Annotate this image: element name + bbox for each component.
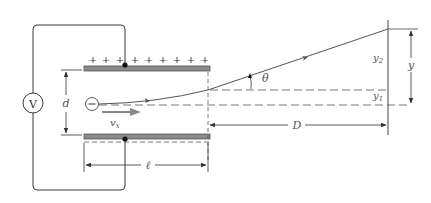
top-plate	[84, 66, 210, 71]
y1-label: y1	[372, 90, 383, 103]
voltmeter-label: V	[28, 98, 38, 111]
electron	[86, 98, 99, 111]
plus-sign: +	[201, 54, 209, 65]
plus-sign: +	[116, 54, 124, 65]
velocity-arrow-icon	[102, 108, 141, 116]
d-label: d	[62, 97, 69, 110]
bottom-plate	[84, 134, 210, 139]
plus-sign: +	[159, 54, 167, 65]
voltmeter: V	[23, 93, 43, 113]
plus-sign: +	[145, 54, 153, 65]
deflection-diagram: V + + + + + + + + + d vx θ	[0, 0, 431, 203]
y-label: y	[407, 59, 415, 72]
bottom-plate-connector	[122, 136, 127, 141]
top-plate-connector	[122, 62, 127, 67]
plus-sign: +	[187, 54, 195, 65]
velocity-label: vx	[110, 117, 120, 130]
top-plate-charges: + + + + + + + + +	[89, 54, 209, 65]
y2-label: y2	[372, 52, 384, 65]
plus-sign: +	[89, 54, 97, 65]
plus-sign: +	[131, 54, 139, 65]
theta-label: θ	[262, 72, 269, 85]
D-label: D	[292, 119, 302, 132]
l-label: ℓ	[146, 159, 151, 172]
plus-sign: +	[102, 54, 110, 65]
plus-sign: +	[173, 54, 181, 65]
